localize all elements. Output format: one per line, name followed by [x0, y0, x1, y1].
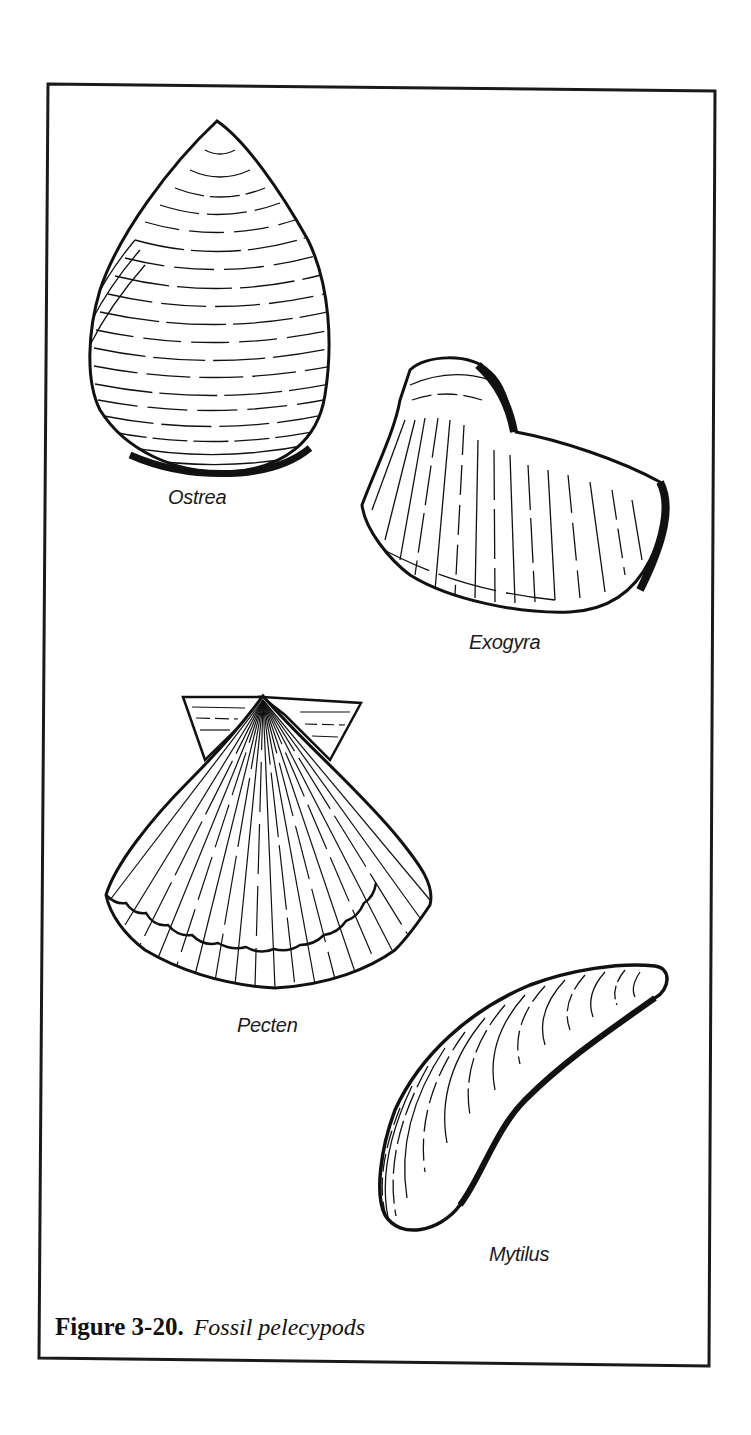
mytilus-illustration [0, 0, 751, 1435]
figure-title: Fossil pelecypods [194, 1314, 365, 1340]
specimen-label-mytilus: Mytilus [489, 1243, 549, 1266]
figure-caption: Figure 3-20.Fossil pelecypods [55, 1313, 365, 1341]
figure-page: Ostrea [0, 0, 751, 1435]
figure-number: Figure 3-20. [55, 1313, 184, 1340]
